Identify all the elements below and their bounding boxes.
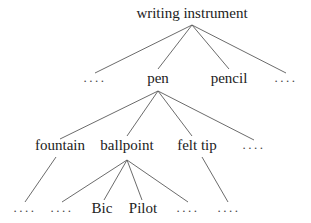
node-l3-ell-4: ....	[218, 201, 241, 214]
node-ballpoint: ballpoint	[100, 138, 153, 153]
tree-edges	[0, 0, 311, 223]
node-l2-ell-right: ....	[243, 138, 266, 151]
node-root: writing instrument	[136, 6, 247, 21]
edge-pen-to-l2_ell_right	[158, 91, 254, 140]
node-fountain: fountain	[35, 138, 85, 153]
edge-root-to-l1_ell_right	[192, 25, 286, 73]
edge-ballpoint-to-bic	[104, 160, 127, 200]
node-l3-ell-3: ....	[177, 201, 200, 214]
node-l1-ell-right: ....	[275, 71, 298, 84]
node-pilot: Pilot	[129, 201, 157, 216]
node-l3-ell-1: ....	[14, 201, 37, 214]
node-pen: pen	[147, 71, 169, 86]
edge-ballpoint-to-l3_ell_3	[127, 160, 188, 202]
edge-pen-to-fountain	[60, 91, 158, 139]
taxonomy-tree-diagram: writing instrument....penpencil....fount…	[0, 0, 311, 223]
edge-pen-to-ballpoint	[127, 91, 158, 136]
edge-ballpoint-to-pilot	[127, 160, 142, 200]
edge-root-to-pencil	[192, 25, 229, 69]
node-l3-ell-2: ....	[51, 201, 74, 214]
node-bic: Bic	[92, 201, 113, 216]
node-pencil: pencil	[211, 71, 248, 86]
node-l1-ell-left: ....	[84, 71, 107, 84]
edge-pen-to-felt_tip	[158, 91, 192, 136]
edge-felt_tip-to-l3_ell_4	[202, 157, 228, 202]
edge-root-to-pen	[158, 25, 192, 69]
edge-ballpoint-to-l3_ell_2	[62, 160, 127, 202]
edge-fountain-to-l3_ell_1	[25, 157, 56, 202]
node-felt-tip: felt tip	[177, 138, 217, 153]
edge-root-to-l1_ell_left	[95, 25, 192, 73]
